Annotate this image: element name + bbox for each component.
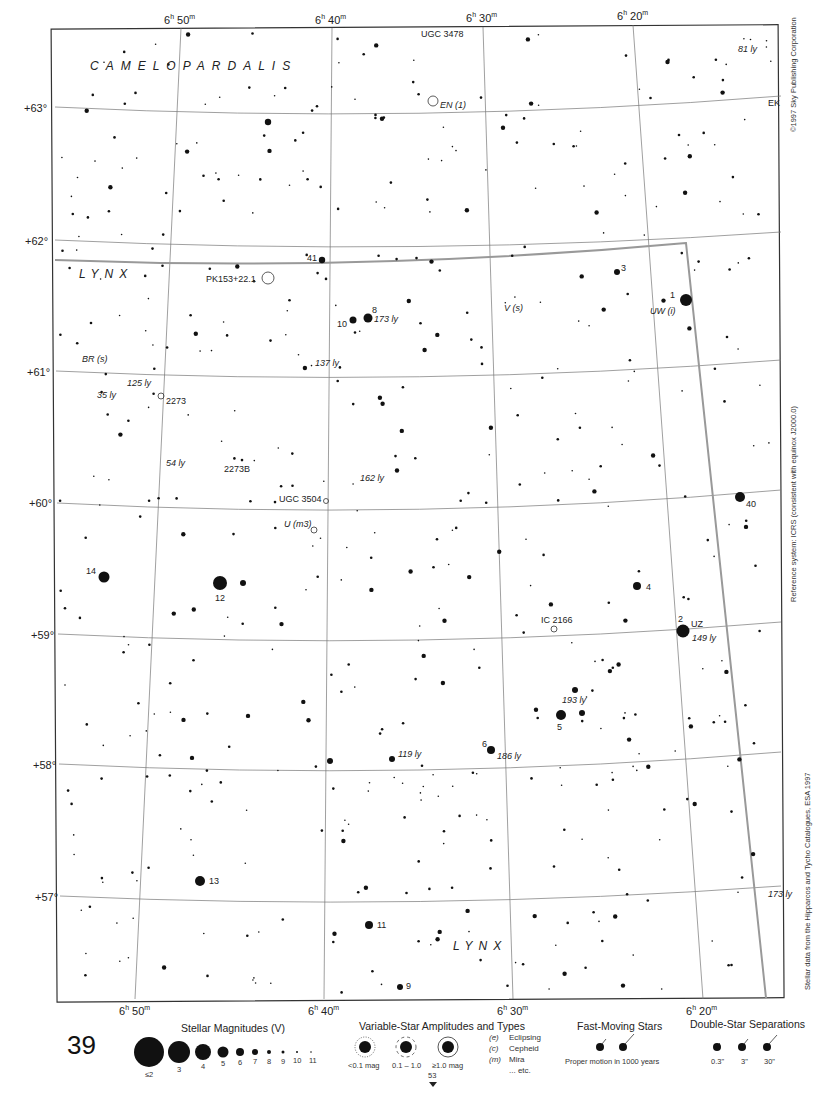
- chart-label: U (m3): [284, 519, 312, 529]
- var-amp-high: ≥1.0 mag: [432, 1061, 463, 1070]
- chart-label: 41: [307, 253, 317, 263]
- constellation-lynx-bottom: LYNX: [453, 939, 507, 953]
- chart-label: 54 ly: [166, 458, 186, 468]
- var-type-code: (m): [489, 1054, 509, 1065]
- mag-label-11: 11: [309, 1056, 317, 1065]
- top-page-ref: 153: [56, 0, 89, 5]
- chart-label: 186 ly: [497, 751, 522, 761]
- chart-label: 193 ly: [562, 695, 587, 705]
- chart-label: 13: [209, 876, 219, 886]
- star-chart: UGC 3478EN (1)EK81 lyPK153+22.14131UW (i…: [0, 0, 824, 1096]
- chart-label: 162 ly: [360, 473, 385, 483]
- page-number: 39: [67, 1030, 96, 1061]
- dec-label-59: +59°: [31, 629, 54, 641]
- dec-label-61: +61°: [27, 366, 50, 378]
- chart-label: UZ: [691, 619, 703, 629]
- chart-label: 173 ly: [768, 889, 793, 899]
- fast-moving-caption: Proper motion in 1000 years: [565, 1057, 659, 1066]
- var-type-name: Mira: [509, 1055, 525, 1064]
- reference-system-note: Reference system: ICRS (consistent with …: [789, 406, 798, 602]
- chart-label: 5: [557, 722, 562, 732]
- chart-label: 125 ly: [127, 378, 152, 388]
- chart-label: 40: [746, 499, 756, 509]
- ra-label-top-620: 6h 20m: [617, 9, 648, 22]
- double-sep-30: 30": [764, 1057, 775, 1066]
- chart-label: EK: [768, 98, 780, 108]
- chart-label: 119 ly: [398, 749, 422, 759]
- fast-moving-legend-title: Fast-Moving Stars: [577, 1020, 662, 1032]
- chart-label: 3: [621, 263, 626, 273]
- mag-label-10: 10: [293, 1056, 301, 1065]
- constellation-boundary: [55, 243, 766, 998]
- dec-label-58: +58°: [33, 759, 56, 771]
- var-amp-low: <0.1 mag: [348, 1061, 379, 1070]
- double-star-legend-symbols: [705, 1034, 785, 1054]
- var-type-etc: ... etc.: [509, 1065, 531, 1076]
- grid-lines: [55, 25, 781, 999]
- chart-labels: UGC 3478EN (1)EK81 lyPK153+22.14131UW (i…: [82, 29, 793, 991]
- chart-label: 173 ly: [374, 314, 399, 324]
- copyright-note: ©1997 Sky Publishing Corporation: [789, 17, 798, 132]
- chart-label: 2: [678, 614, 683, 624]
- ra-label-top-650: 6h 50m: [164, 13, 195, 26]
- adjacent-chart-ref[interactable]: 53: [428, 1071, 436, 1080]
- mag-label-7: 7: [253, 1057, 257, 1066]
- stars: [59, 32, 772, 994]
- var-amp-mid: 0.1 – 1.0: [392, 1061, 421, 1070]
- chart-label: UGC 3478: [421, 29, 464, 39]
- magnitude-legend-title: Stellar Magnitudes (V): [181, 1022, 285, 1034]
- arrow-down-icon[interactable]: [429, 1082, 437, 1087]
- var-type-mira: (m)Mira: [489, 1054, 525, 1065]
- double-star-legend-title: Double-Star Separations: [690, 1018, 805, 1030]
- ra-label-bottom-620: 6h 20m: [686, 1004, 717, 1017]
- chart-label: 2273: [166, 396, 186, 406]
- chart-label: 4: [646, 582, 651, 592]
- mag-label-8: 8: [267, 1057, 271, 1066]
- chart-label: 35 ly: [97, 390, 117, 400]
- chart-label: 6: [482, 739, 487, 749]
- var-type-code: (e): [489, 1032, 509, 1043]
- ra-label-top-630: 6h 30m: [466, 11, 497, 24]
- chart-label: BR (s): [82, 354, 108, 364]
- chart-label: 149 ly: [692, 633, 717, 643]
- variable-legend-title: Variable-Star Amplitudes and Types: [359, 1020, 525, 1032]
- chart-label: UW (i): [650, 306, 676, 316]
- ra-label-bottom-650: 6h 50m: [119, 1004, 150, 1017]
- chart-label: 9: [406, 981, 411, 991]
- dec-label-63: +63°: [24, 102, 47, 114]
- chart-frame: [51, 25, 784, 1002]
- chart-label: EN (1): [440, 100, 466, 110]
- ra-label-bottom-640: 6h 40m: [308, 1004, 339, 1017]
- double-sep-03: 0.3": [711, 1057, 724, 1066]
- dec-label-57: +57°: [35, 891, 58, 903]
- mag-label-2: ≤2: [145, 1070, 153, 1079]
- var-type-name: Cepheid: [509, 1044, 539, 1053]
- chart-label: UGC 3504: [279, 494, 322, 504]
- var-type-cepheid: (c)Cepheid: [489, 1043, 539, 1054]
- var-type-name: Eclipsing: [509, 1033, 541, 1042]
- constellation-camelopardalis: CAMELOPARDALIS: [90, 59, 297, 73]
- ra-label-top-640: 6h 40m: [315, 13, 346, 26]
- ra-label-bottom-630: 6h 30m: [497, 1004, 528, 1017]
- chart-label: 14: [86, 566, 96, 576]
- chart-label: 81 ly: [738, 44, 758, 54]
- chart-label: V (s): [504, 303, 523, 313]
- var-type-name: ... etc.: [509, 1066, 531, 1075]
- fast-moving-legend-symbols: [590, 1034, 640, 1054]
- dec-label-62: +62°: [25, 235, 48, 247]
- chart-label: 12: [215, 593, 225, 603]
- mag-label-9: 9: [281, 1057, 285, 1066]
- variable-legend-symbols: [350, 1033, 470, 1063]
- chart-label: PK153+22.1: [206, 274, 256, 284]
- chart-label: IC 2166: [541, 615, 573, 625]
- var-type-eclipsing: (e)Eclipsing: [489, 1032, 541, 1043]
- dec-label-60: +60°: [29, 497, 52, 509]
- chart-label: 2273B: [224, 464, 250, 474]
- double-sep-3: 3": [741, 1057, 748, 1066]
- var-type-code: (c): [489, 1043, 509, 1054]
- mag-label-5: 5: [221, 1059, 225, 1068]
- chart-label: 11: [377, 920, 386, 930]
- chart-label: 1: [670, 290, 675, 300]
- mag-label-3: 3: [177, 1065, 181, 1074]
- data-source-note: Stellar data from the Hipparcos and Tych…: [803, 773, 812, 991]
